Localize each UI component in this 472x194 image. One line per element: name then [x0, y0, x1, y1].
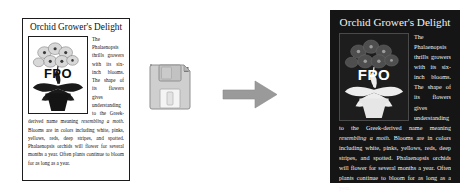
light-card-body: FPO The Phalaenopsis thrills growers wit…: [28, 35, 124, 167]
dark-fpo-image: FPO: [339, 33, 409, 121]
floppy-disk-icon: [148, 62, 192, 110]
light-body-text-2: . Blooms are in colors including white, …: [28, 118, 124, 165]
dark-body-text-2: . Blooms are in colors including white, …: [339, 134, 451, 192]
light-fpo-image: FPO: [28, 36, 88, 114]
right-arrow-glyph: [221, 78, 279, 111]
dark-orchid-card: Orchid Grower's Delight: [330, 10, 460, 183]
dark-card-title: Orchid Grower's Delight: [339, 17, 451, 29]
floppy-disk-glyph: [148, 62, 192, 110]
dark-body-italic: resembling a moth: [339, 134, 389, 141]
orchid-illustration-light: [29, 37, 87, 113]
canvas: Orchid Grower's Delight: [0, 0, 472, 194]
orchid-illustration-dark: [340, 34, 408, 120]
light-body-italic: resembling a moth: [81, 118, 122, 124]
light-orchid-card: Orchid Grower's Delight: [22, 18, 130, 181]
dark-card-body: FPO The Phalaenopsis thrills growers wit…: [339, 32, 451, 194]
right-arrow-icon: [221, 78, 279, 111]
light-card-title: Orchid Grower's Delight: [28, 23, 124, 33]
